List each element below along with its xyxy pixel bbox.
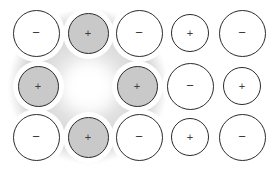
charge-symbol: − — [135, 26, 143, 39]
ion-r2c3-positive[interactable]: + — [117, 66, 158, 107]
ion-r1c2-positive[interactable]: + — [68, 13, 109, 54]
charge-symbol: − — [238, 130, 246, 143]
charge-symbol: − — [32, 26, 40, 39]
charge-symbol: + — [134, 80, 140, 91]
charge-symbol: + — [85, 131, 91, 142]
ion-r2c4-negative[interactable]: − — [167, 63, 214, 110]
charge-symbol: − — [32, 130, 40, 143]
vacancy-glow — [52, 52, 126, 122]
ion-r3c5-negative[interactable]: − — [219, 114, 266, 161]
charge-symbol: − — [238, 26, 246, 39]
ion-r2c5-positive[interactable]: + — [223, 67, 261, 105]
charge-symbol: − — [186, 79, 194, 92]
ion-r3c3-negative[interactable]: − — [116, 114, 163, 161]
ion-r2c1-positive[interactable]: + — [18, 66, 59, 107]
ion-r3c2-positive[interactable]: + — [68, 117, 109, 158]
charge-symbol: + — [239, 80, 245, 91]
charge-symbol: + — [187, 27, 193, 38]
ion-r1c3-negative[interactable]: − — [116, 10, 163, 57]
ion-r1c1-negative[interactable]: − — [13, 10, 60, 57]
charge-symbol: + — [35, 80, 41, 91]
ion-r1c5-negative[interactable]: − — [219, 10, 266, 57]
ion-r3c1-negative[interactable]: − — [13, 114, 60, 161]
ion-r3c4-positive[interactable]: + — [171, 118, 209, 156]
charge-symbol: + — [187, 131, 193, 142]
charge-symbol: − — [135, 130, 143, 143]
ion-r1c4-positive[interactable]: + — [171, 14, 209, 52]
charge-symbol: + — [85, 27, 91, 38]
ionic-lattice-figure: −+−+−++−+−+−+− — [0, 0, 275, 172]
